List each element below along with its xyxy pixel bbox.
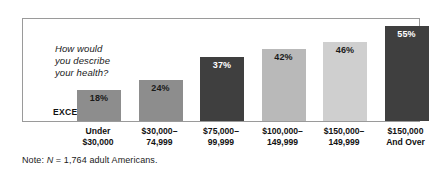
chart-plot-frame: How would you describe your health? EXCE…	[22, 18, 420, 122]
bar-4: 42%	[262, 49, 306, 121]
bar-value-label-2: 24%	[139, 83, 183, 94]
bar-2: 24%	[139, 80, 183, 121]
chart-note: Note: N = 1,764 adult Americans.	[22, 155, 158, 165]
bar-3: 37%	[200, 57, 244, 121]
note-suffix: = 1,764 adult Americans.	[53, 155, 157, 165]
bar-1: 18%	[77, 90, 121, 121]
category-label-1: Under $30,000	[67, 126, 129, 148]
chart-question-text: How would you describe your health?	[55, 43, 110, 80]
category-label-3: $75,000– 99,999	[190, 126, 252, 148]
figure-container: How would you describe your health? EXCE…	[0, 0, 442, 175]
bar-5: 46%	[323, 42, 367, 121]
bar-6: 55%	[385, 26, 429, 121]
bar-value-label-3: 37%	[200, 60, 244, 71]
category-label-2: $30,000– 74,999	[129, 126, 191, 148]
bar-value-label-6: 55%	[385, 29, 429, 40]
bar-value-label-4: 42%	[262, 52, 306, 63]
note-prefix: Note:	[22, 155, 47, 165]
category-label-6: $150,000 And Over	[375, 126, 437, 148]
category-label-4: $100,000– 149,999	[252, 126, 314, 148]
category-label-5: $150,000– 149,999	[313, 126, 375, 148]
bar-value-label-5: 46%	[323, 45, 367, 56]
bar-value-label-1: 18%	[77, 93, 121, 104]
